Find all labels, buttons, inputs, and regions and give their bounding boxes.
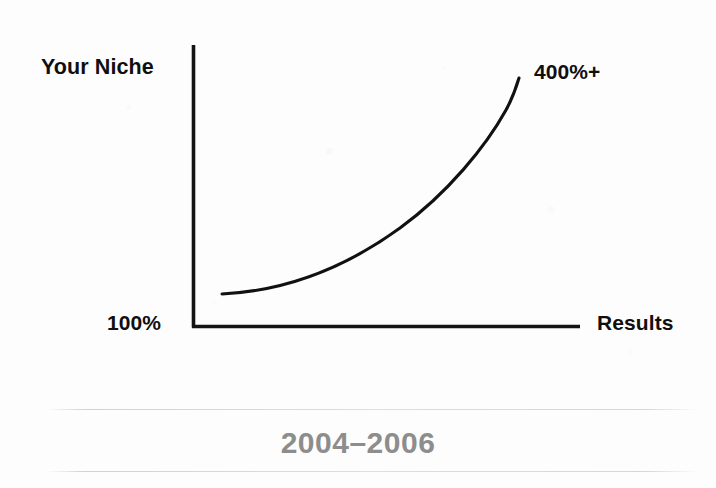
y-axis-tick-label-100: 100%: [107, 311, 161, 335]
y-axis-label: Your Niche: [41, 55, 154, 80]
caption-rule-bottom: [46, 471, 698, 472]
chart-page: Your Niche 400%+ 100% Results 2004–2006: [0, 0, 716, 488]
curve-end-annotation: 400%+: [534, 60, 600, 84]
caption-years: 2004–2006: [0, 426, 716, 460]
growth-curve-line: [222, 78, 519, 294]
x-axis-label: Results: [597, 311, 674, 335]
caption-rule-top: [46, 409, 698, 410]
